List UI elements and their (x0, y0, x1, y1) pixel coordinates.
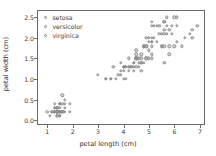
scatter-chart-figure: 1234567 0.00.51.01.52.02.5 petal length … (0, 0, 216, 156)
legend-marker-icon (44, 16, 47, 19)
y-tick-mark (34, 58, 37, 59)
y-tick-mark (34, 17, 37, 18)
legend-label: virginica (52, 32, 78, 39)
x-axis-label: petal length (cm) (0, 140, 216, 148)
legend-marker-icon (44, 25, 47, 28)
legend-entry[interactable]: setosa (42, 13, 83, 22)
y-tick-mark (34, 79, 37, 80)
legend-entry[interactable]: virginica (42, 31, 83, 40)
legend-label: setosa (52, 14, 72, 21)
legend-marker-icon (44, 34, 47, 37)
x-tick-label: 5 (147, 128, 151, 135)
legend-entry[interactable]: versicolor (42, 22, 83, 31)
y-tick-mark (34, 38, 37, 39)
legend-label: versicolor (52, 23, 82, 30)
y-tick-label: 1.5 (24, 55, 34, 62)
y-tick-mark (34, 120, 37, 121)
y-tick-label: 1.0 (24, 76, 34, 83)
y-tick-label: 2.5 (24, 14, 34, 21)
y-tick-mark (34, 100, 37, 101)
x-tick-label: 7 (198, 128, 202, 135)
x-tick-label: 6 (172, 128, 176, 135)
x-tick-label: 3 (96, 128, 100, 135)
legend: setosaversicolorvirginica (42, 13, 83, 40)
y-tick-label: 0.0 (24, 117, 34, 124)
y-tick-label: 0.5 (24, 96, 34, 103)
x-tick-label: 1 (45, 128, 49, 135)
y-tick-label: 2.0 (24, 34, 34, 41)
y-axis-label: petal width (cm) (2, 31, 10, 97)
x-tick-label: 2 (71, 128, 75, 135)
x-tick-label: 4 (122, 128, 126, 135)
